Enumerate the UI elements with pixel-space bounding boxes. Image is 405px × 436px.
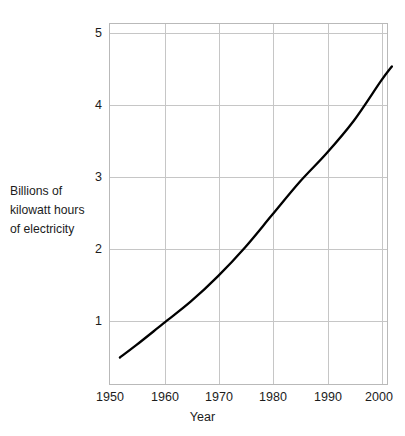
x-tick-label-1980: 1980 [259, 390, 287, 404]
y-tick-label-2: 2 [76, 243, 102, 256]
y-axis-title-line-2: kilowatt hours [10, 201, 106, 220]
x-tick-label-1960: 1960 [151, 390, 179, 404]
gridline-y-5 [110, 33, 387, 34]
plot-area [109, 23, 388, 385]
y-tick-label-1: 1 [76, 315, 102, 328]
y-tick-label-4: 4 [76, 99, 102, 112]
y-axis-title-line-3: of electricity [10, 220, 106, 239]
y-axis-title-line-1: Billions of [10, 182, 106, 201]
x-axis-title: Year [0, 410, 405, 424]
gridline-x-1990 [328, 24, 329, 384]
gridline-x-1960 [165, 24, 166, 384]
gridline-y-4 [110, 105, 387, 106]
chart-screenshot: 5 4 3 2 1 1950 1960 1970 1980 1990 2000 … [0, 0, 405, 436]
x-tick-label-2000: 2000 [365, 390, 393, 404]
gridline-y-1 [110, 321, 387, 322]
x-axis-tick-labels: 1950 1960 1970 1980 1990 2000 [0, 390, 405, 408]
x-tick-label-1970: 1970 [205, 390, 233, 404]
gridline-x-1970 [219, 24, 220, 384]
y-axis-title: Billions of kilowatt hours of electricit… [10, 182, 106, 239]
x-tick-label-1950: 1950 [96, 390, 124, 404]
gridline-y-3 [110, 177, 387, 178]
gridline-y-2 [110, 249, 387, 250]
y-tick-label-5: 5 [76, 27, 102, 40]
gridline-x-1980 [273, 24, 274, 384]
gridline-x-2000 [382, 24, 383, 384]
x-tick-label-1990: 1990 [314, 390, 342, 404]
